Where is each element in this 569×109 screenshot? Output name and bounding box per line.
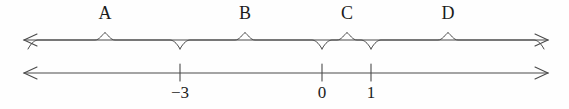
tick-label-1: 1 [367, 84, 376, 101]
brace-b [180, 33, 322, 50]
number-axis-layer [24, 64, 548, 81]
brace-a [28, 33, 180, 50]
interval-label-d: D [442, 4, 455, 22]
diagram-canvas [0, 0, 569, 109]
tick-label-0: 0 [318, 84, 327, 101]
interval-label-b: B [239, 4, 251, 22]
brace-d [371, 33, 544, 50]
interval-label-a: A [99, 4, 112, 22]
brace-layer [24, 33, 548, 50]
number-line-diagram: ABCD −301 [0, 0, 569, 109]
interval-label-c: C [341, 4, 353, 22]
brace-c [322, 33, 371, 50]
tick-label--3: −3 [171, 84, 189, 101]
